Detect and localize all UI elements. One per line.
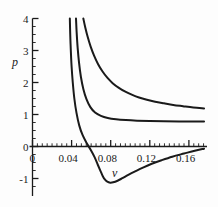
y-tick-label: 2	[9, 78, 29, 89]
x-tick-label: 0.16	[176, 153, 195, 164]
curve-upper-isotherm	[83, 19, 204, 109]
x-tick-label: 0.04	[59, 153, 78, 164]
x-tick-label: 0	[30, 153, 36, 164]
x-axis-title: v	[112, 167, 117, 179]
y-tick-label: -1	[9, 174, 29, 185]
y-tick-label: 4	[9, 14, 29, 25]
y-tick-label: 0	[9, 142, 29, 153]
plot-canvas	[0, 0, 218, 207]
axes-group	[30, 19, 208, 197]
isotherm-plot-figure: 00.040.080.120.16-101234 p v	[0, 0, 218, 207]
y-tick-label: 1	[9, 110, 29, 121]
x-tick-label: 0.12	[137, 153, 156, 164]
x-tick-label: 0.08	[98, 153, 117, 164]
y-axis-title: p	[12, 56, 18, 68]
